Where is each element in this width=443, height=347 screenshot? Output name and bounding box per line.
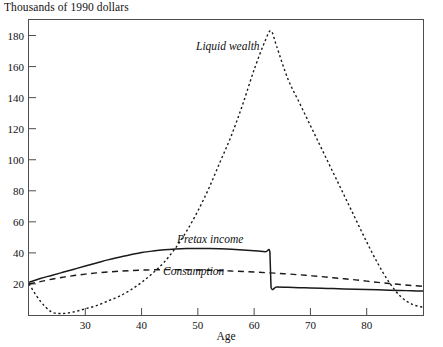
liquid-wealth-label: Liquid wealth: [195, 40, 260, 53]
x-tick-label: 30: [80, 319, 92, 331]
x-tick-label: 50: [192, 319, 204, 331]
series-line-liquid-wealth: [29, 31, 423, 314]
y-tick-label: 100: [8, 154, 25, 166]
y-tick-label: 180: [8, 30, 25, 42]
x-axis-ticks: 304050607080: [80, 308, 373, 331]
x-axis-title: Age: [216, 330, 235, 343]
y-tick-label: 60: [13, 216, 25, 228]
y-tick-label: 140: [8, 92, 25, 104]
y-axis-ticks: 20406080100120140160180: [8, 30, 37, 290]
series-line-pretax-income: [29, 248, 423, 291]
line-chart-svg: 20406080100120140160180 304050607080 Age…: [0, 0, 443, 347]
x-tick-label: 70: [305, 319, 317, 331]
chart-figure: Thousands of 1990 dollars 20406080100120…: [0, 0, 443, 347]
series-line-consumption: [29, 270, 423, 287]
y-tick-label: 20: [13, 278, 25, 290]
series-curves: [29, 31, 423, 314]
pretax-income-label: Pretax income: [176, 233, 243, 245]
y-tick-label: 120: [8, 123, 25, 135]
x-tick-label: 80: [361, 319, 373, 331]
consumption-label: Consumption: [163, 265, 225, 278]
x-tick-label: 40: [136, 319, 148, 331]
y-tick-label: 160: [8, 61, 25, 73]
x-tick-label: 60: [249, 319, 261, 331]
y-tick-label: 40: [13, 247, 25, 259]
y-tick-label: 80: [13, 185, 25, 197]
plot-frame: [29, 20, 424, 316]
